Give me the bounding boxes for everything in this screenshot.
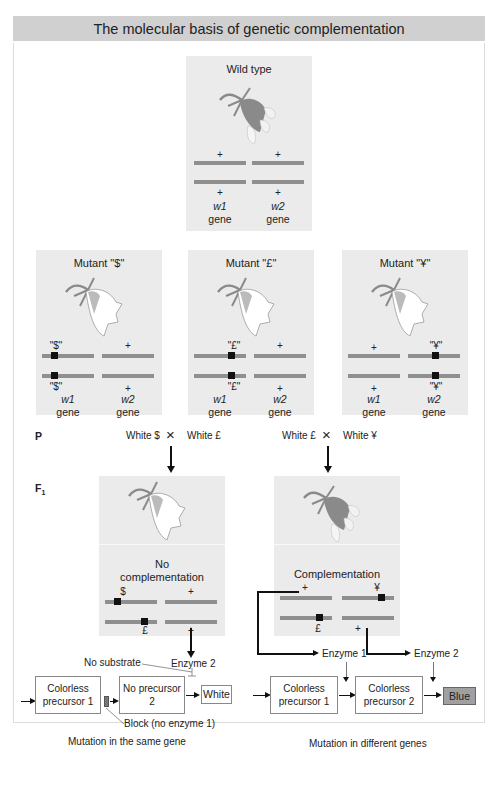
w1-gene-bar xyxy=(348,354,400,358)
blue-result-box: Blue xyxy=(443,687,476,705)
wild-type-panel: Wild type + + + + w1gene w2gene xyxy=(186,56,312,231)
arrow-right-icon xyxy=(436,692,442,698)
arrow-right-icon xyxy=(313,650,319,656)
flower-white-icon xyxy=(64,274,134,340)
w2-top-allele: + xyxy=(102,340,154,351)
panel-title: Nocomplementation xyxy=(99,558,225,584)
cross-left-parent1: White $ xyxy=(126,430,160,441)
mutation-marker xyxy=(51,372,58,379)
w1-bottom-allele: + xyxy=(194,187,246,198)
arrow-down-icon xyxy=(187,651,195,658)
w1-bottom-allele: "$" xyxy=(42,381,70,392)
w1-gene-label: w1gene xyxy=(194,393,246,419)
panel-title: Complementation xyxy=(274,568,400,580)
cross-symbol: × xyxy=(322,426,331,443)
w2-top-allele: + xyxy=(254,340,306,351)
enzyme2-label: Enzyme 2 xyxy=(414,648,458,659)
w1-top-allele: + xyxy=(194,149,246,160)
mutant-dollar-panel: Mutant "$" "$" + "$" + w1gene w2gene xyxy=(36,250,162,415)
w2-gene-bar xyxy=(102,354,154,358)
no-substrate-label: No substrate xyxy=(84,657,141,668)
w2-gene-bar xyxy=(252,161,304,165)
w1-top-allele: "£" xyxy=(220,340,248,351)
panel-title: Mutant "¥" xyxy=(342,257,468,269)
panel-title: Mutant "£" xyxy=(188,257,314,269)
cross-arrow-shaft xyxy=(327,446,329,467)
w1-top-allele: $ xyxy=(113,586,133,597)
w1-gene-bar xyxy=(105,600,157,604)
w1-gene-bar xyxy=(194,354,246,358)
w1-gene-bar xyxy=(348,374,400,378)
expression-arrow-shaft xyxy=(190,628,192,652)
w1-gene-label: w1gene xyxy=(194,200,246,226)
mutation-marker xyxy=(432,352,439,359)
w2-gene-bar xyxy=(102,374,154,378)
flower-white-icon xyxy=(370,274,440,340)
w2-gene-bar xyxy=(165,620,217,624)
w2-gene-bar xyxy=(342,596,394,600)
w2-gene-label: w2gene xyxy=(408,393,460,419)
block-label: Block (no enzyme 1) xyxy=(124,718,215,729)
mutation-marker xyxy=(141,618,148,625)
arrow-down-icon xyxy=(324,466,332,473)
f1-no-complementation-panel: Nocomplementation $ + £ + xyxy=(99,476,225,636)
right-caption: Mutation in different genes xyxy=(309,738,427,749)
mutation-marker xyxy=(316,614,323,621)
w2-bottom-allele: "¥" xyxy=(422,381,450,392)
w2-gene-label: w2gene xyxy=(102,393,154,419)
generation-p-label: P xyxy=(35,430,42,442)
flower-pigmented-icon xyxy=(300,480,370,545)
w1-gene-bar xyxy=(42,374,94,378)
w1-top-allele: + xyxy=(298,582,312,593)
colorless-precursor-1-box: Colorless precursor 1 xyxy=(35,676,101,714)
w1-gene-bar xyxy=(42,354,94,358)
w2-top-allele: + xyxy=(252,149,304,160)
white-result-box: White xyxy=(201,685,232,704)
f1-complementation-panel: Complementation + ¥ £ + xyxy=(274,476,400,636)
mutation-marker xyxy=(228,372,235,379)
mutant-yen-panel: Mutant "¥" + "¥" + "¥" w1gene w2gene xyxy=(342,250,468,415)
w2-top-allele: + xyxy=(165,586,217,597)
w2-gene-label: w2gene xyxy=(254,393,306,419)
w1-top-allele: "$" xyxy=(42,340,70,351)
w2-gene-label: w2gene xyxy=(252,200,304,226)
panel-title: Mutant "$" xyxy=(36,257,162,269)
w1-gene-bar xyxy=(194,374,246,378)
w2-top-allele: "¥" xyxy=(422,340,450,351)
w1-gene-label: w1gene xyxy=(42,393,94,419)
w1-bottom-allele: £ xyxy=(135,625,155,636)
w2-gene-bar xyxy=(342,616,394,620)
w1-bottom-allele: "£" xyxy=(220,381,248,392)
flower-white-icon xyxy=(127,478,197,544)
cross-left-parent2: White £ xyxy=(187,430,221,441)
w2-gene-bar xyxy=(165,600,217,604)
w2-gene-bar xyxy=(254,374,306,378)
flower-pigmented-icon xyxy=(216,82,286,147)
w1-top-allele: + xyxy=(348,342,400,353)
cross-right-parent1: White £ xyxy=(282,430,316,441)
cross-arrow-shaft xyxy=(170,446,172,467)
arrow-right-icon xyxy=(405,650,411,656)
left-caption: Mutation in the same gene xyxy=(68,736,186,747)
arrow-down-icon xyxy=(343,677,349,682)
w1-gene-bar xyxy=(105,620,157,624)
mutation-marker xyxy=(228,352,235,359)
w2-gene-bar xyxy=(254,354,306,358)
mutation-marker xyxy=(51,352,58,359)
arrow-down-icon xyxy=(167,466,175,473)
arrow-right-icon xyxy=(194,692,200,698)
mutant-pound-panel: Mutant "£" "£" + "£" + w1gene w2gene xyxy=(188,250,314,415)
w2-bottom-allele: + xyxy=(350,623,366,634)
w1-gene-bar xyxy=(194,161,246,165)
cross-symbol: × xyxy=(166,426,175,443)
mutation-marker xyxy=(378,594,385,601)
flower-white-icon xyxy=(216,274,286,340)
panel-title: Wild type xyxy=(186,63,312,75)
w2-gene-bar xyxy=(252,180,304,184)
generation-f1-label: F1 xyxy=(35,482,45,496)
w1-gene-label: w1gene xyxy=(348,393,400,419)
figure-title: The molecular basis of genetic complemen… xyxy=(13,16,485,41)
w1-gene-bar xyxy=(280,596,332,600)
cross-right-parent2: White ¥ xyxy=(343,430,377,441)
colorless-precursor-2-box: Colorless precursor 2 xyxy=(355,676,423,714)
